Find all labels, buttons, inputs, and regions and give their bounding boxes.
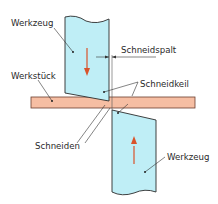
label-edges: Schneiden [35,141,80,151]
shearing-diagram: Werkzeug Schneidspalt Werkstück Schneidk… [0,0,218,204]
workpiece-strip [31,97,195,108]
label-workpiece: Werkstück [11,71,56,81]
label-wedge: Schneidkeil [140,79,189,89]
gap-dimension [96,56,156,59]
label-tool-bottom: Werkzeug [167,152,210,162]
label-gap: Schneidspalt [121,45,177,55]
label-tool-top: Werkzeug [11,18,54,28]
